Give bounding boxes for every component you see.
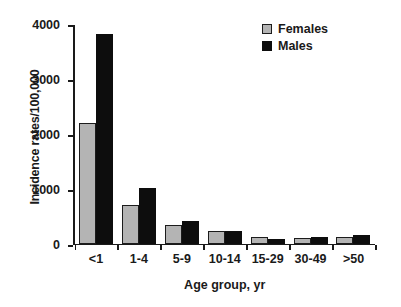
x-axis-title: Age group, yr (75, 278, 376, 292)
bar-group (117, 25, 160, 244)
legend-label: Males (278, 39, 313, 53)
bar-females-<1 (79, 123, 96, 243)
bar-groups (75, 25, 376, 244)
bar-females-15-29 (251, 237, 268, 244)
bar-females-5-9 (165, 225, 182, 243)
bar-males-30-49 (311, 237, 328, 244)
bar-group (203, 25, 246, 244)
plot-area: 01000200030004000 (73, 25, 375, 245)
legend-label: Females (278, 22, 328, 36)
x-axis-label: 1-4 (117, 252, 160, 266)
bar-group (160, 25, 203, 244)
y-axis-tick-label: 4000 (32, 18, 60, 32)
bar-males-1-4 (139, 188, 156, 244)
incidence-rate-bar-chart: Incidence rates/100,000 0100020003000400… (0, 0, 401, 307)
x-axis-tick (160, 245, 162, 250)
bar-group (246, 25, 289, 244)
bar-males->50 (353, 235, 370, 244)
x-axis-label: 5-9 (160, 252, 203, 266)
legend-item-males: Males (262, 39, 328, 53)
x-axis-label: 15-29 (246, 252, 289, 266)
y-axis-tick: 3000 (68, 80, 73, 82)
x-axis-tick (75, 245, 77, 250)
x-axis-tick (203, 245, 205, 250)
y-axis-tick: 0 (68, 245, 73, 247)
legend-item-females: Females (262, 22, 328, 36)
legend-swatch-males (262, 41, 272, 51)
x-axis-tick (289, 245, 291, 250)
bar-males-10-14 (225, 231, 242, 244)
y-axis-tick-label: 2000 (32, 128, 60, 142)
bar-males-<1 (96, 34, 113, 243)
bar-females-30-49 (294, 238, 311, 244)
bar-group (332, 25, 375, 244)
x-axis-tick (375, 245, 377, 250)
y-axis-tick-label: 0 (53, 238, 60, 252)
bar-females-1-4 (122, 205, 139, 244)
x-axis-labels: <11-45-910-1415-2930-49>50 (75, 252, 376, 266)
bar-males-15-29 (268, 239, 285, 243)
x-axis-label: 30-49 (289, 252, 332, 266)
x-axis-tick (117, 245, 119, 250)
x-axis-label: <1 (75, 252, 118, 266)
bar-males-5-9 (182, 221, 199, 244)
y-axis-tick: 1000 (68, 190, 73, 192)
bar-group (75, 25, 118, 244)
x-axis-tick (332, 245, 334, 250)
x-axis-label: >50 (332, 252, 375, 266)
y-axis-tick: 4000 (68, 25, 73, 27)
legend: FemalesMales (262, 22, 328, 56)
y-axis-tick-label: 3000 (32, 73, 60, 87)
y-axis-tick: 2000 (68, 135, 73, 137)
bar-group (289, 25, 332, 244)
bar-females->50 (336, 237, 353, 244)
x-axis-tick (246, 245, 248, 250)
legend-swatch-females (262, 24, 272, 34)
x-axis-label: 10-14 (203, 252, 246, 266)
bar-females-10-14 (208, 231, 225, 244)
y-axis-tick-label: 1000 (32, 183, 60, 197)
